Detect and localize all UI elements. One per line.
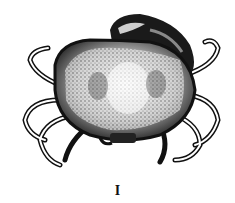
crab-illustration xyxy=(0,0,235,180)
figure-caption: I xyxy=(0,184,235,198)
figure: I xyxy=(0,0,235,203)
